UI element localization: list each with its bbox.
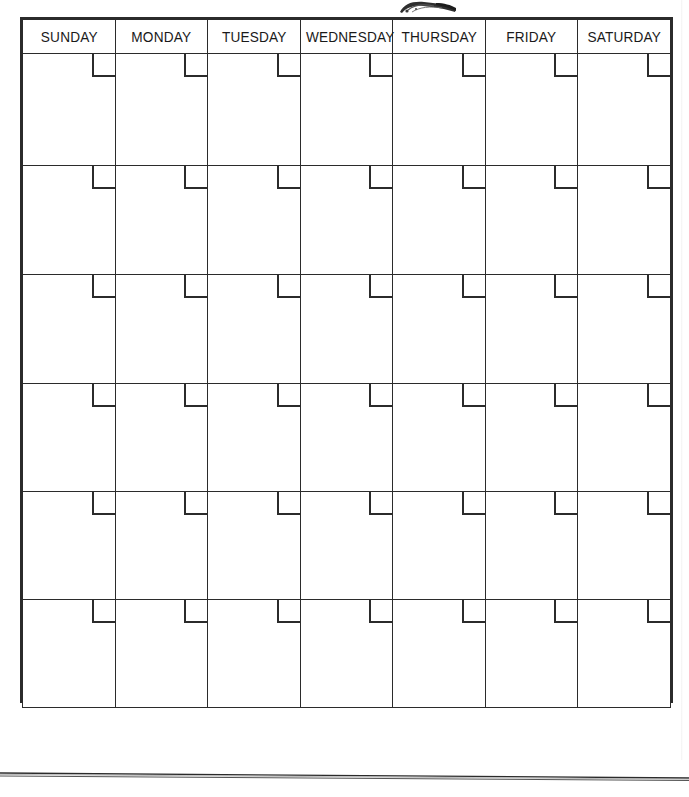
day-header-wednesday: WEDNESDAY xyxy=(306,20,387,54)
day-cell[interactable] xyxy=(578,383,671,492)
day-cell[interactable] xyxy=(485,600,578,708)
date-number-box[interactable] xyxy=(369,491,393,515)
day-cell[interactable] xyxy=(393,274,486,383)
date-number-box[interactable] xyxy=(277,491,301,515)
day-cell[interactable] xyxy=(393,383,486,492)
date-number-box[interactable] xyxy=(277,53,301,77)
day-cell[interactable] xyxy=(485,383,578,492)
date-number-box[interactable] xyxy=(554,383,578,407)
date-number-box[interactable] xyxy=(369,599,393,623)
date-number-box[interactable] xyxy=(92,165,116,189)
day-cell[interactable] xyxy=(300,274,393,383)
day-cell[interactable] xyxy=(300,492,393,600)
day-cell[interactable] xyxy=(115,383,208,492)
day-cell[interactable] xyxy=(115,54,208,166)
date-number-box[interactable] xyxy=(277,165,301,189)
date-number-box[interactable] xyxy=(462,599,486,623)
date-number-box[interactable] xyxy=(647,274,671,298)
day-cell[interactable] xyxy=(485,166,578,275)
date-number-box[interactable] xyxy=(462,165,486,189)
day-cell[interactable] xyxy=(115,166,208,275)
calendar-week-row xyxy=(23,166,671,275)
date-number-box[interactable] xyxy=(462,383,486,407)
calendar-body xyxy=(23,54,671,708)
date-number-box[interactable] xyxy=(92,599,116,623)
day-cell[interactable] xyxy=(23,492,116,600)
date-number-box[interactable] xyxy=(184,383,208,407)
day-cell[interactable] xyxy=(485,54,578,166)
day-cell[interactable] xyxy=(300,166,393,275)
date-number-box[interactable] xyxy=(369,383,393,407)
day-cell[interactable] xyxy=(393,166,486,275)
day-cell[interactable] xyxy=(578,274,671,383)
calendar-week-row xyxy=(23,492,671,600)
day-header-friday: FRIDAY xyxy=(491,20,572,54)
day-cell[interactable] xyxy=(485,274,578,383)
date-number-box[interactable] xyxy=(647,599,671,623)
day-cell[interactable] xyxy=(23,166,116,275)
date-number-box[interactable] xyxy=(184,165,208,189)
day-cell[interactable] xyxy=(208,166,301,275)
date-number-box[interactable] xyxy=(92,383,116,407)
day-cell[interactable] xyxy=(23,54,116,166)
date-number-box[interactable] xyxy=(184,53,208,77)
day-cell[interactable] xyxy=(393,492,486,600)
date-number-box[interactable] xyxy=(184,599,208,623)
calendar-week-row xyxy=(23,54,671,166)
date-number-box[interactable] xyxy=(92,491,116,515)
day-cell[interactable] xyxy=(208,600,301,708)
date-number-box[interactable] xyxy=(647,491,671,515)
date-number-box[interactable] xyxy=(462,491,486,515)
day-cell[interactable] xyxy=(578,54,671,166)
date-number-box[interactable] xyxy=(277,599,301,623)
date-number-box[interactable] xyxy=(554,491,578,515)
calendar-header-row: SUNDAY MONDAY TUESDAY WEDNESDAY THURSDAY… xyxy=(23,20,671,54)
day-cell[interactable] xyxy=(23,383,116,492)
date-number-box[interactable] xyxy=(647,383,671,407)
date-number-box[interactable] xyxy=(462,53,486,77)
day-cell[interactable] xyxy=(578,600,671,708)
date-number-box[interactable] xyxy=(369,274,393,298)
day-cell[interactable] xyxy=(115,492,208,600)
day-cell[interactable] xyxy=(115,600,208,708)
date-number-box[interactable] xyxy=(277,383,301,407)
day-cell[interactable] xyxy=(23,600,116,708)
day-cell[interactable] xyxy=(208,274,301,383)
date-number-box[interactable] xyxy=(369,165,393,189)
date-number-box[interactable] xyxy=(554,274,578,298)
day-cell[interactable] xyxy=(485,492,578,600)
date-number-box[interactable] xyxy=(554,53,578,77)
date-number-box[interactable] xyxy=(647,53,671,77)
date-number-box[interactable] xyxy=(92,53,116,77)
day-header-saturday: SATURDAY xyxy=(583,20,665,54)
date-number-box[interactable] xyxy=(92,274,116,298)
day-header-sunday: SUNDAY xyxy=(28,20,109,54)
day-cell[interactable] xyxy=(300,600,393,708)
calendar-week-row xyxy=(23,274,671,383)
day-header-monday: MONDAY xyxy=(121,20,202,54)
day-cell[interactable] xyxy=(208,492,301,600)
day-cell[interactable] xyxy=(578,166,671,275)
day-cell[interactable] xyxy=(208,383,301,492)
day-cell[interactable] xyxy=(300,383,393,492)
date-number-box[interactable] xyxy=(462,274,486,298)
day-header-tuesday: TUESDAY xyxy=(213,20,294,54)
date-number-box[interactable] xyxy=(277,274,301,298)
scan-edge-line-artifact xyxy=(0,771,689,783)
date-number-box[interactable] xyxy=(647,165,671,189)
day-cell[interactable] xyxy=(393,600,486,708)
date-number-box[interactable] xyxy=(369,53,393,77)
date-number-box[interactable] xyxy=(184,274,208,298)
day-cell[interactable] xyxy=(578,492,671,600)
day-cell[interactable] xyxy=(393,54,486,166)
date-number-box[interactable] xyxy=(554,165,578,189)
scanned-page: SUNDAY MONDAY TUESDAY WEDNESDAY THURSDAY… xyxy=(0,0,689,797)
date-number-box[interactable] xyxy=(554,599,578,623)
day-cell[interactable] xyxy=(23,274,116,383)
day-cell[interactable] xyxy=(208,54,301,166)
calendar-table: SUNDAY MONDAY TUESDAY WEDNESDAY THURSDAY… xyxy=(22,19,671,708)
day-cell[interactable] xyxy=(300,54,393,166)
day-header-thursday: THURSDAY xyxy=(398,20,479,54)
date-number-box[interactable] xyxy=(184,491,208,515)
day-cell[interactable] xyxy=(115,274,208,383)
